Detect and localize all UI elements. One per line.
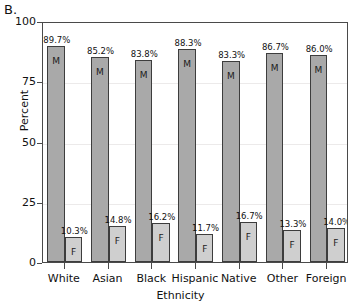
x-tick-mark [282,263,283,269]
bar-series-letter: F [66,247,82,257]
y-axis-title: Percent [18,51,31,171]
x-tick-mark [108,263,109,269]
bar-series-letter: F [153,233,169,243]
bar-group: M83.8%F16.2% [130,23,174,262]
bar-value-label: 10.3% [61,226,88,236]
bar-value-label: 86.7% [262,42,289,52]
bar-series-letter: F [197,244,213,254]
bar-value-label: 14.0% [323,217,348,227]
bar-other-f[interactable]: F [283,230,301,262]
bar-series-letter: M [311,65,327,75]
bar-group: M88.3%F11.7% [174,23,218,262]
bar-value-label: 16.7% [236,211,263,221]
bar-group: M89.7%F10.3% [43,23,87,262]
y-tick-label: 25 [2,196,36,209]
bar-group: M86.0%F14.0% [305,23,348,262]
bar-group: M85.2%F14.8% [87,23,131,262]
bar-asian-f[interactable]: F [109,226,127,262]
x-tick-mark [195,263,196,269]
bar-value-label: 83.8% [131,49,158,59]
x-tick-mark [151,263,152,269]
bar-series-letter: F [328,238,344,248]
bar-other-m[interactable]: M [266,53,284,262]
x-tick-mark [64,263,65,269]
bar-native-m[interactable]: M [222,61,240,262]
bar-value-label: 16.2% [148,212,175,222]
bar-black-f[interactable]: F [152,223,170,262]
bar-group: M83.3%F16.7% [218,23,262,262]
bar-hispanic-f[interactable]: F [196,234,214,262]
bar-group: M86.7%F13.3% [262,23,306,262]
bar-foreign-f[interactable]: F [327,228,345,262]
bar-black-m[interactable]: M [135,60,153,262]
bar-value-label: 89.7% [43,35,70,45]
bar-series-letter: F [110,236,126,246]
bar-value-label: 86.0% [306,44,333,54]
bar-series-letter: F [284,240,300,250]
bar-foreign-m[interactable]: M [310,55,328,262]
bar-series-letter: M [92,67,108,77]
bar-series-letter: F [241,232,257,242]
bar-series-letter: M [223,71,239,81]
bar-series-letter: M [267,63,283,73]
bar-white-f[interactable]: F [65,237,83,262]
bar-series-letter: M [48,56,64,66]
bar-series-letter: M [136,70,152,80]
bar-native-f[interactable]: F [240,222,258,262]
y-tick-label: 0 [2,256,36,269]
bar-asian-m[interactable]: M [91,57,109,262]
y-tick-label: 100 [2,15,36,28]
bar-value-label: 11.7% [192,223,219,233]
bar-value-label: 88.3% [174,38,201,48]
bar-series-letter: M [179,59,195,69]
x-tick-mark [239,263,240,269]
bar-value-label: 14.8% [105,215,132,225]
x-tick-mark [326,263,327,269]
bar-value-label: 85.2% [87,46,114,56]
x-tick-label-foreign: Foreign [286,272,361,285]
y-tick-mark [37,263,42,264]
bar-value-label: 13.3% [279,219,306,229]
x-axis-title: Ethnicity [0,289,361,302]
bar-value-label: 83.3% [218,50,245,60]
plot-area: M89.7%F10.3%M85.2%F14.8%M83.8%F16.2%M88.… [42,22,348,263]
